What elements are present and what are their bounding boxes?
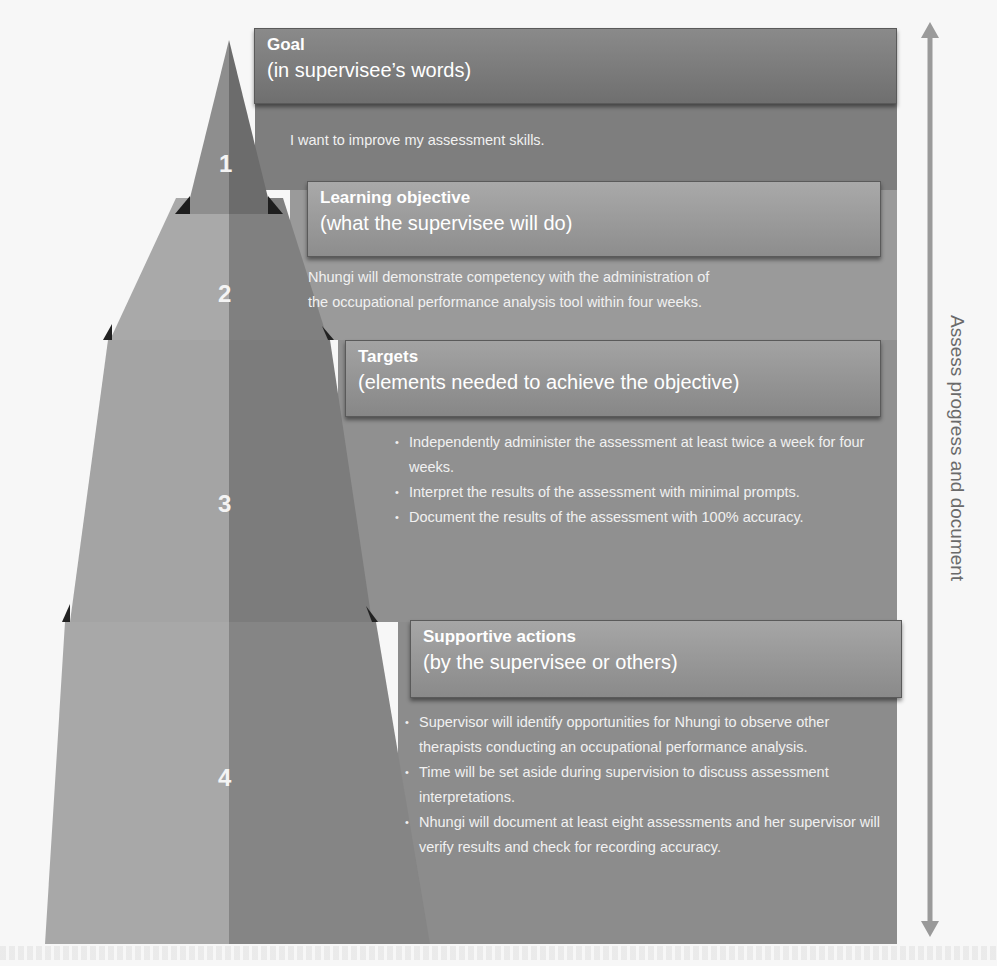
target-item: Independently administer the assessment …: [395, 430, 875, 480]
learning-objective-subtitle: (what the supervisee will do): [320, 210, 868, 236]
learning-objective-line: Nhungi will demonstrate competency with …: [308, 265, 898, 290]
target-item: Document the results of the assessment w…: [395, 505, 875, 530]
targets-title: Targets: [358, 345, 868, 369]
tier-4-number: 4: [218, 764, 231, 792]
supportive-actions-label-box: Supportive actions (by the supervisee or…: [410, 620, 902, 698]
supportive-action-item: Nhungi will document at least eight asse…: [405, 810, 895, 860]
tier-3-number: 3: [218, 490, 231, 518]
targets-list: Independently administer the assessment …: [395, 430, 875, 530]
goal-subtitle: (in supervisee’s words): [267, 57, 884, 83]
target-item: Interpret the results of the assessment …: [395, 480, 875, 505]
tier-3-left-face: [70, 340, 229, 622]
tier-4-left-face: [45, 622, 229, 944]
learning-objective-title: Learning objective: [320, 186, 868, 210]
goal-text: I want to improve my assessment skills.: [290, 128, 545, 153]
goal-title: Goal: [267, 33, 884, 57]
learning-objective-label-box: Learning objective (what the supervisee …: [307, 181, 881, 257]
supportive-action-item: Supervisor will identify opportunities f…: [405, 710, 895, 760]
supportive-actions-list: Supervisor will identify opportunities f…: [405, 710, 895, 860]
learning-objective-line: the occupational performance analysis to…: [308, 290, 898, 315]
supportive-actions-subtitle: (by the supervisee or others): [423, 649, 889, 675]
goal-label-box: Goal (in supervisee’s words): [254, 28, 897, 104]
tier-2-number: 2: [218, 280, 231, 308]
assess-progress-label: Assess progress and document: [938, 400, 968, 510]
tier-1-left-face: [186, 40, 229, 214]
supportive-action-item: Time will be set aside during supervisio…: [405, 760, 895, 810]
tier-4-right-face: [229, 622, 430, 944]
targets-label-box: Targets (elements needed to achieve the …: [345, 340, 881, 417]
tier-2-left-face: [110, 198, 229, 340]
targets-subtitle: (elements needed to achieve the objectiv…: [358, 369, 868, 395]
supportive-actions-title: Supportive actions: [423, 625, 889, 649]
learning-objective-text: Nhungi will demonstrate competency with …: [308, 265, 898, 315]
assess-progress-text: Assess progress and document: [946, 315, 968, 581]
tier-1-number: 1: [219, 150, 232, 178]
